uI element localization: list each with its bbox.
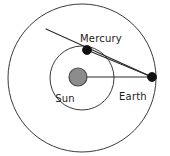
earth-body xyxy=(148,73,157,82)
sun-body xyxy=(69,68,87,86)
astronomy-diagram: Mercury Sun Earth xyxy=(0,0,170,156)
earth-mercury-line xyxy=(87,50,152,77)
sun-label: Sun xyxy=(55,93,75,104)
mercury-body xyxy=(83,46,92,55)
mercury-label: Mercury xyxy=(80,33,122,44)
diagram-canvas: Mercury Sun Earth xyxy=(0,0,170,156)
earth-label: Earth xyxy=(119,91,147,102)
